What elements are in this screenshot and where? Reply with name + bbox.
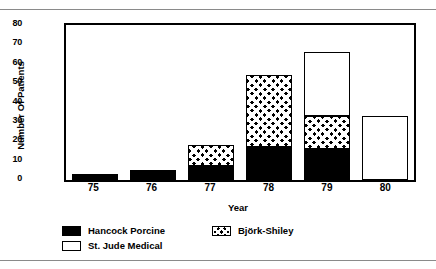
y-axis-tick-label: 40 [4,96,22,105]
x-axis-tick-label: 76 [122,182,180,193]
chart-figure: Number Of Patients 01020304050607080 757… [0,0,436,269]
y-axis: Number Of Patients 01020304050607080 [0,0,64,201]
x-axis-tick-label: 78 [239,182,297,193]
bar-slot-77 [182,25,240,180]
stacked-bar-77[interactable] [188,145,234,180]
bar-segment [304,116,350,149]
top-divider-rule [0,9,436,10]
bar-slot-80 [356,25,414,180]
bar-segment [304,52,350,116]
y-axis-tick-label: 50 [4,77,22,86]
bar-slot-76 [124,25,182,180]
bar-segment [362,116,408,180]
y-axis-tick-label: 30 [4,115,22,124]
y-axis-tick-label: 20 [4,135,22,144]
legend-row-2: St. Jude Medical [62,238,382,253]
bar-segment [304,149,350,180]
legend-item-hancock-porcine: Hancock Porcine [62,226,212,236]
bar-segment [246,75,292,147]
legend-label-bjork-shiley: Björk-Shiley [238,226,293,236]
bar-group [66,25,414,180]
x-axis: 757677787980 [64,180,416,202]
crosshatch-swatch-icon [212,226,231,236]
x-axis-tick-76: 76 [122,180,180,202]
chart-legend: Hancock Porcine Björk-Shiley St. Jude Me… [62,223,382,253]
x-axis-tick-75: 75 [64,180,122,202]
bar-segment [130,170,176,180]
stacked-bar-79[interactable] [304,52,350,180]
x-axis-tick-label: 80 [356,182,414,193]
x-axis-tick-78: 78 [239,180,297,202]
y-axis-tick-label: 60 [4,57,22,66]
bar-segment [188,145,234,166]
y-axis-tick-label: 80 [4,19,22,28]
legend-item-bjork-shiley: Björk-Shiley [212,226,293,236]
bar-slot-78 [240,25,298,180]
legend-label-hancock-porcine: Hancock Porcine [88,226,165,236]
legend-item-st-jude-medical: St. Jude Medical [62,241,212,251]
bar-segment [246,147,292,180]
x-axis-tick-label: 77 [181,182,239,193]
y-axis-tick-label: 10 [4,154,22,163]
bar-slot-75 [66,25,124,180]
bar-slot-79 [298,25,356,180]
x-axis-title: Year [64,202,412,213]
x-axis-tick-label: 75 [64,182,122,193]
x-axis-tick-label: 79 [298,182,356,193]
bar-segment [188,166,234,180]
x-axis-tick-79: 79 [298,180,356,202]
y-axis-tick-label: 0 [4,174,22,183]
stacked-bar-76[interactable] [130,170,176,180]
legend-row-1: Hancock Porcine Björk-Shiley [62,223,382,238]
white-outline-swatch-icon [62,241,81,251]
solid-black-swatch-icon [62,226,81,236]
x-axis-tick-77: 77 [181,180,239,202]
stacked-bar-78[interactable] [246,75,292,180]
y-axis-tick-label: 70 [4,38,22,47]
stacked-bar-80[interactable] [362,116,408,180]
bottom-divider-rule [0,260,436,261]
legend-label-st-jude-medical: St. Jude Medical [88,241,162,251]
plot-area [64,23,416,182]
x-axis-tick-80: 80 [356,180,414,202]
